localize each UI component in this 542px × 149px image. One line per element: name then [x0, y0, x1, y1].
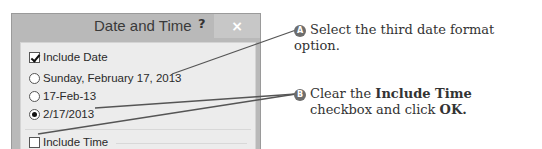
callout-badge-b: B	[294, 89, 306, 101]
callout-badge-a: A	[294, 25, 306, 37]
callout-b-bold2: OK.	[440, 102, 467, 117]
callout-b: BClear the Include Time checkbox and cli…	[294, 86, 472, 118]
callout-a-text: Select the third date format option.	[294, 22, 494, 53]
callout-b-text2: checkbox and click	[294, 102, 440, 117]
callout-b-text: Clear the	[310, 86, 375, 101]
callout-a: ASelect the third date format option.	[294, 22, 542, 54]
callout-b-bold: Include Time	[375, 86, 471, 101]
